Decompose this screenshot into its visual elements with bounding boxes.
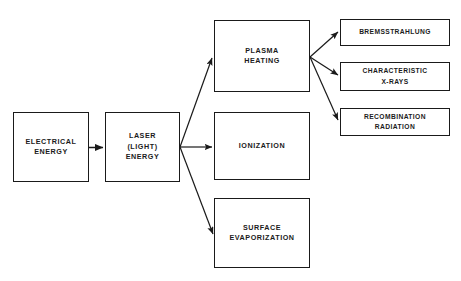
node-label-recombination-radiation: RECOMBINATION RADIATION — [362, 112, 428, 133]
node-label-characteristic-x-rays: CHARACTERISTIC X-RAYS — [360, 66, 429, 87]
node-label-plasma-heating: PLASMA HEATING — [242, 46, 282, 67]
edge-laser-to-plasma — [180, 58, 212, 147]
edge-plasma-to-bremsstrahlung — [310, 32, 338, 57]
node-bremsstrahlung[interactable]: BREMSSTRAHLUNG — [340, 19, 450, 46]
node-label-laser-light-energy: LASER (LIGHT) ENERGY — [124, 131, 162, 163]
node-recombination-radiation[interactable]: RECOMBINATION RADIATION — [340, 108, 450, 136]
flowchart-diagram: ELECTRICAL ENERGY LASER (LIGHT) ENERGY P… — [0, 0, 461, 281]
edge-laser-to-surface — [180, 147, 213, 234]
node-laser-light-energy[interactable]: LASER (LIGHT) ENERGY — [105, 112, 180, 182]
node-surface-evaporization[interactable]: SURFACE EVAPORIZATION — [214, 198, 310, 268]
node-electrical-energy[interactable]: ELECTRICAL ENERGY — [13, 112, 89, 182]
node-characteristic-x-rays[interactable]: CHARACTERISTIC X-RAYS — [340, 62, 450, 91]
node-plasma-heating[interactable]: PLASMA HEATING — [214, 20, 310, 92]
node-label-surface-evaporization: SURFACE EVAPORIZATION — [227, 223, 296, 244]
node-label-ionization: IONIZATION — [237, 141, 288, 152]
node-label-electrical-energy: ELECTRICAL ENERGY — [23, 137, 78, 158]
node-ionization[interactable]: IONIZATION — [214, 112, 310, 180]
node-label-bremsstrahlung: BREMSSTRAHLUNG — [357, 27, 433, 38]
